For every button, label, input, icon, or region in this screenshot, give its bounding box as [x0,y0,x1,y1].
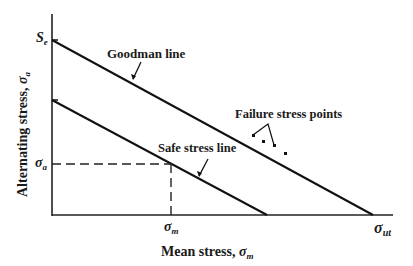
failure-points-label: Failure stress points [235,107,342,121]
y-axis-title: Alternating stress, σa [15,72,32,197]
sigma-m-label: σm [164,219,179,236]
failure-point [252,134,255,137]
goodman-line [52,40,373,215]
goodman-line-label: Goodman line [107,46,186,61]
se-label: Se [36,30,48,47]
x-axis-title: Mean stress, σm [161,244,253,261]
goodman-diagram: Goodman line Safe stress line Failure st… [0,0,413,266]
safe-stress-line-label: Safe stress line [158,141,237,155]
failure-point [273,144,276,147]
failure-point [284,152,287,155]
sigma-a-label: σa [35,155,48,172]
sigma-ut-label: σut [374,219,392,238]
failure-point [262,140,265,143]
